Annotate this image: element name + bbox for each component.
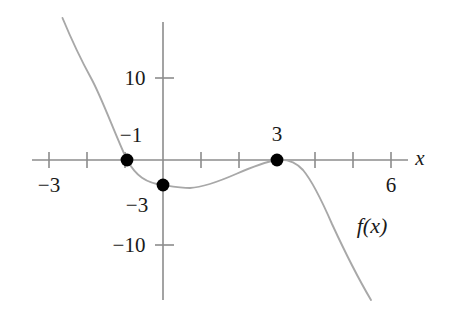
function-graph-figure: −3 6 10 −10 −3 −1 3 x f(x) [0,0,451,313]
y-tick-label-neg10: −10 [113,235,146,256]
root-label-3: 3 [272,124,283,145]
plot-canvas [0,0,451,313]
y-tick-label-10: 10 [125,68,146,89]
x-tick-label-neg3: −3 [38,175,60,196]
function-label: f(x) [357,215,388,237]
y-intercept-label-neg3: −3 [126,195,148,216]
point-y-intercept [157,179,170,192]
function-curve [63,18,372,300]
point-root-3 [271,154,284,167]
point-root-neg1 [121,154,134,167]
root-label-neg1: −1 [120,125,142,146]
x-tick-label-6: 6 [386,175,397,196]
x-axis-label: x [415,148,424,169]
y-axis-ticks [155,78,174,245]
